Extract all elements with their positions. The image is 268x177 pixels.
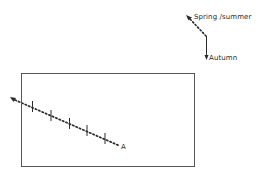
area-frame <box>21 73 195 167</box>
path-end-label: A <box>121 144 126 151</box>
migration-diagram: Spring /summer Autumn A <box>0 0 268 177</box>
spring-summer-label: Spring /summer <box>194 14 251 21</box>
autumn-label: Autumn <box>209 55 237 62</box>
autumn-solid-arrow-icon <box>205 36 209 60</box>
